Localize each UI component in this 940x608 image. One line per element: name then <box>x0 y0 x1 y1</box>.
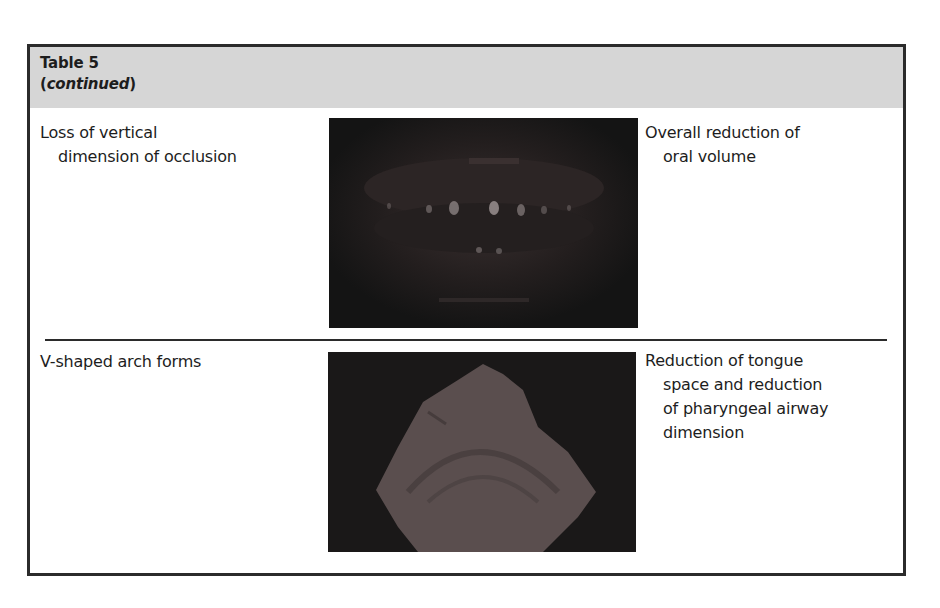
row2-feature: V-shaped arch forms <box>40 350 201 374</box>
row1-feature-line2: dimension of occlusion <box>40 145 237 169</box>
table-title: Table 5 <box>40 54 99 72</box>
row2-effect-line1: Reduction of tongue <box>645 349 828 373</box>
row1-effect-line1: Overall reduction of <box>645 121 800 145</box>
arch-cast-photo <box>328 352 636 552</box>
row2-effect-line4: dimension <box>645 421 828 445</box>
row-divider <box>45 339 887 341</box>
row2-effect-line3: of pharyngeal airway <box>645 397 828 421</box>
row1-effect: Overall reduction of oral volume <box>645 121 800 169</box>
occlusion-photo <box>329 118 638 328</box>
arch-cast-photo-image <box>328 352 636 552</box>
occlusion-photo-image <box>329 118 638 328</box>
row1-effect-line2: oral volume <box>645 145 800 169</box>
row1-feature-line1: Loss of vertical <box>40 121 237 145</box>
row1-feature: Loss of vertical dimension of occlusion <box>40 121 237 169</box>
table-frame: Table 5 (continued) Loss of vertical dim… <box>27 44 906 576</box>
row2-effect: Reduction of tongue space and reduction … <box>645 349 828 445</box>
subtitle-paren-open: ( <box>40 75 47 93</box>
row2-effect-line2: space and reduction <box>645 373 828 397</box>
subtitle-paren-close: ) <box>129 75 136 93</box>
table-header: Table 5 (continued) <box>30 47 903 108</box>
table-subtitle: (continued) <box>40 75 136 93</box>
subtitle-continued: continued <box>47 75 130 93</box>
row2-feature-line1: V-shaped arch forms <box>40 350 201 374</box>
